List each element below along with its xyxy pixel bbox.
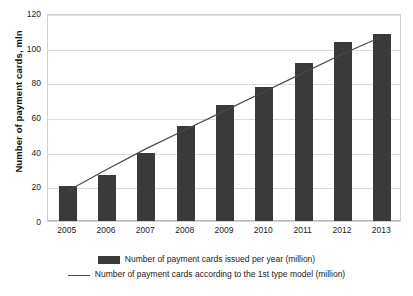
x-tick-label: 2007 <box>136 226 155 235</box>
y-tick-label: 60 <box>11 114 41 123</box>
x-tick-label: 2006 <box>97 226 116 235</box>
y-tick-label: 100 <box>11 45 41 54</box>
y-tick-label: 80 <box>11 79 41 88</box>
x-tick-label: 2013 <box>372 226 391 235</box>
y-tick-label: 0 <box>11 218 41 227</box>
y-tick-label: 120 <box>11 10 41 19</box>
legend-item-bars: Number of payment cards issued per year … <box>0 252 413 267</box>
chart-legend: Number of payment cards issued per year … <box>0 252 413 282</box>
x-axis-tick-labels: 200520062007200820092010201120122013 <box>47 226 401 240</box>
legend-bar-swatch-icon <box>98 256 120 264</box>
x-tick-label: 2011 <box>294 226 312 235</box>
legend-item-line: Number of payment cards according to the… <box>0 267 413 282</box>
y-tick-label: 20 <box>11 183 41 192</box>
line-series <box>48 15 400 221</box>
x-tick-label: 2012 <box>333 226 352 235</box>
x-tick-label: 2008 <box>175 226 194 235</box>
x-tick-label: 2009 <box>215 226 234 235</box>
x-tick-label: 2010 <box>254 226 273 235</box>
model-line <box>68 37 381 191</box>
legend-label-bars: Number of payment cards issued per year … <box>125 255 315 264</box>
y-tick-label: 40 <box>11 149 41 158</box>
legend-line-glyph-icon <box>68 271 90 279</box>
chart-container: Number of payment cards, mln 02040608010… <box>0 0 413 296</box>
x-tick-label: 2005 <box>57 226 76 235</box>
plot-area <box>47 14 401 222</box>
legend-label-line: Number of payment cards according to the… <box>95 270 345 279</box>
